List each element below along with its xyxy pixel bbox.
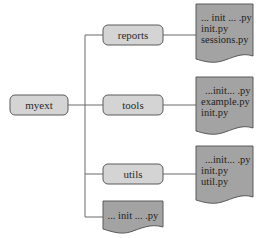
folder-node-utils: utils — [103, 164, 163, 184]
root-node-label: myext — [25, 99, 53, 111]
file-name: init.py — [201, 107, 229, 118]
file-node-root-init: ... init ... .py — [103, 201, 163, 233]
file-list-tools: ...init... .py example.py init.py — [196, 77, 253, 134]
file-name: ...init... .py — [205, 154, 251, 165]
folder-node-tools: tools — [103, 95, 163, 115]
file-name: example.py — [201, 96, 250, 107]
file-label: ... init ... .py — [108, 210, 160, 221]
folder-label: reports — [118, 29, 149, 41]
tree-connectors — [68, 35, 196, 217]
file-name: ...init... .py — [205, 85, 251, 96]
folder-label: tools — [122, 99, 143, 111]
file-name: util.py — [201, 176, 229, 187]
folder-label: utils — [124, 168, 143, 180]
file-name: sessions.py — [201, 34, 249, 45]
file-list-utils: ...init... .py init.py util.py — [196, 146, 253, 203]
folder-node-reports: reports — [103, 25, 163, 45]
file-list-reports: ... init ... .py init.py sessions.py — [196, 4, 253, 62]
file-name: ... init ... .py — [201, 12, 253, 23]
package-structure-diagram: myext reports tools utils ... init ... .… — [0, 0, 259, 238]
root-node-myext: myext — [10, 95, 68, 115]
file-name: init.py — [201, 23, 229, 34]
file-name: init.py — [201, 165, 229, 176]
